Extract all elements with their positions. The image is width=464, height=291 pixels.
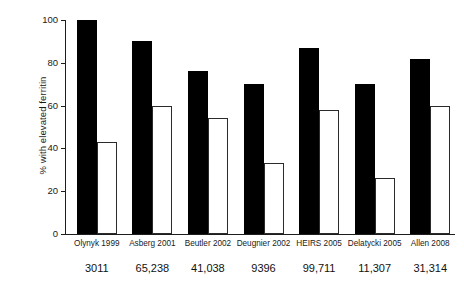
sample-size-label: 99,711 — [303, 262, 336, 274]
bar-group — [132, 20, 172, 234]
y-tick-label: 40 — [47, 144, 58, 154]
bar-open — [319, 110, 339, 234]
y-tick-mark — [61, 106, 66, 107]
y-tick-mark — [61, 63, 66, 64]
category-label: Allen 2008 — [411, 239, 450, 248]
y-axis-line — [65, 20, 66, 235]
category-label: Olynyk 1999 — [74, 239, 120, 248]
plot-area: 020406080100 — [66, 20, 455, 234]
bar-group — [244, 20, 284, 234]
sample-size-label: 65,238 — [136, 262, 170, 274]
category-label: Asberg 2001 — [129, 239, 175, 248]
sample-size-label: 11,307 — [358, 262, 391, 274]
bar-filled — [355, 84, 375, 234]
bar-open — [430, 106, 450, 234]
bar-group — [299, 20, 339, 234]
y-axis-title: % with elevated ferritin — [37, 26, 48, 226]
y-tick-mark — [61, 148, 66, 149]
y-tick-label: 20 — [47, 186, 58, 196]
bar-filled — [77, 20, 97, 234]
bar-open — [97, 142, 117, 234]
y-tick-label: 0 — [53, 229, 58, 239]
bar-group — [355, 20, 395, 234]
bar-group — [77, 20, 117, 234]
category-label: Beutler 2002 — [185, 239, 231, 248]
bar-open — [264, 163, 284, 234]
y-tick-label: 80 — [47, 58, 58, 68]
x-axis-line — [65, 234, 455, 235]
y-tick-mark — [61, 234, 66, 235]
y-tick-mark — [61, 191, 66, 192]
bar-filled — [132, 41, 152, 234]
y-tick-label: 100 — [42, 15, 58, 25]
bar-filled — [188, 71, 208, 234]
bar-group — [188, 20, 228, 234]
sample-size-label: 9396 — [251, 262, 275, 274]
sample-size-label: 31,314 — [413, 262, 447, 274]
category-label: Delatycki 2005 — [348, 239, 402, 248]
sample-size-label: 41,038 — [191, 262, 225, 274]
y-tick-mark — [61, 20, 66, 21]
bar-open — [208, 118, 228, 234]
bar-filled — [244, 84, 264, 234]
bar-group — [410, 20, 450, 234]
sample-size-label: 3011 — [85, 262, 109, 274]
bar-filled — [299, 48, 319, 234]
y-tick-label: 60 — [47, 101, 58, 111]
category-label: HEIRS 2005 — [296, 239, 342, 248]
category-label: Deugnier 2002 — [237, 239, 291, 248]
bar-open — [375, 178, 395, 234]
bar-filled — [410, 59, 430, 234]
chart-figure: % with elevated ferritin 020406080100 Ol… — [0, 0, 464, 291]
bar-open — [152, 106, 172, 234]
